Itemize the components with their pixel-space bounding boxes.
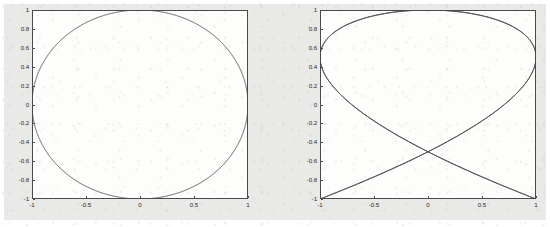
right-plot-ytick-mark <box>321 142 323 143</box>
right-plot-xtick-label: 0.5 <box>478 202 486 208</box>
left-plot-ytick-label: 1 <box>7 7 29 13</box>
right-plot-ytick-mark <box>321 29 323 30</box>
right-plot-ytick-label: 0.6 <box>295 45 317 51</box>
right-plot-ytick-mark <box>321 105 323 106</box>
left-plot-xtick-label: 1 <box>246 202 249 208</box>
left-plot-ytick-mark <box>33 161 35 162</box>
left-plot-ytick-mark <box>33 142 35 143</box>
right-plot-ytick-label: 0 <box>295 101 317 107</box>
left-plot-ytick-mark <box>33 86 35 87</box>
left-plot-ytick-label: -0.4 <box>7 139 29 145</box>
right-plot-ytick-label: 1 <box>295 7 317 13</box>
right-plot-ytick-label: -1 <box>295 196 317 202</box>
right-plot-ytick-mark <box>321 123 323 124</box>
left-plot-ytick-mark <box>33 123 35 124</box>
left-plot-ytick-label: -0.2 <box>7 120 29 126</box>
left-plot-xtick-label: -0.5 <box>81 202 91 208</box>
left-plot-xtick-mark <box>194 196 195 198</box>
right-plot-ytick-label: 0.2 <box>295 82 317 88</box>
left-plot-xtick-mark <box>140 196 141 198</box>
right-plot-xtick-label: -0.5 <box>369 202 379 208</box>
left-plot-ytick-label: 0.4 <box>7 64 29 70</box>
left-plot-ytick-mark <box>33 29 35 30</box>
left-plot-xtick-mark <box>86 196 87 198</box>
right-plot-xtick-mark <box>374 196 375 198</box>
right-plot-ytick-mark <box>321 199 323 200</box>
right-plot-ytick-label: 0.4 <box>295 64 317 70</box>
left-plot-ytick-label: 0.8 <box>7 26 29 32</box>
left-plot-ytick-label: 0.6 <box>7 45 29 51</box>
left-plot-xtick-label: 0.5 <box>190 202 198 208</box>
right-plot-xtick-label: 1 <box>534 202 537 208</box>
right-plot-ytick-mark <box>321 67 323 68</box>
left-plot-ytick-mark <box>33 48 35 49</box>
right-plot-ytick-label: -0.4 <box>295 139 317 145</box>
right-plot-xtick-label: -1 <box>317 202 322 208</box>
right-plot-xtick-label: 0 <box>426 202 429 208</box>
left-plot-xtick-label: 0 <box>138 202 141 208</box>
left-plot-ytick-label: 0 <box>7 101 29 107</box>
right-plot-axes: -1-0.8-0.6-0.4-0.200.20.40.60.81-1-0.500… <box>320 10 536 199</box>
right-plot-ytick-label: -0.2 <box>295 120 317 126</box>
right-plot-ytick-mark <box>321 86 323 87</box>
figure-root: -1-0.8-0.6-0.4-0.200.20.40.60.81-1-0.500… <box>0 0 550 227</box>
right-plot-ytick-label: -0.6 <box>295 158 317 164</box>
left-plot-xtick-mark <box>248 196 249 198</box>
right-plot-xtick-mark <box>536 196 537 198</box>
right-plot-ytick-mark <box>321 48 323 49</box>
right-plot-ytick-label: -0.8 <box>295 177 317 183</box>
left-plot-ytick-label: -0.6 <box>7 158 29 164</box>
left-plot-xtick-label: -1 <box>29 202 34 208</box>
left-plot-ytick-label: 0.2 <box>7 82 29 88</box>
left-plot-ytick-mark <box>33 199 35 200</box>
right-plot-curve <box>320 10 536 199</box>
left-plot-xtick-mark <box>32 196 33 198</box>
right-plot-xtick-mark <box>428 196 429 198</box>
right-plot-ytick-mark <box>321 180 323 181</box>
left-plot-ytick-mark <box>33 180 35 181</box>
left-plot-ytick-label: -0.8 <box>7 177 29 183</box>
right-plot-xtick-mark <box>482 196 483 198</box>
right-plot-ytick-mark <box>321 10 323 11</box>
right-plot-ytick-mark <box>321 161 323 162</box>
left-plot-ytick-mark <box>33 10 35 11</box>
left-plot-ytick-label: -1 <box>7 196 29 202</box>
left-plot-curve <box>32 10 248 199</box>
right-plot-xtick-mark <box>320 196 321 198</box>
left-plot-axes: -1-0.8-0.6-0.4-0.200.20.40.60.81-1-0.500… <box>32 10 248 199</box>
left-plot-ytick-mark <box>33 105 35 106</box>
left-plot-ytick-mark <box>33 67 35 68</box>
right-plot-ytick-label: 0.8 <box>295 26 317 32</box>
